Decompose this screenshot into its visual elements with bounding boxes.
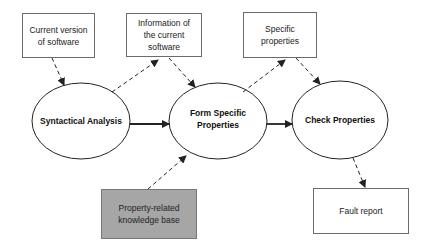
edge-info-software-to-form-specific: [169, 58, 195, 87]
edge-specific-props-to-check-props: [296, 58, 320, 84]
ellipse-label-text: Syntactical Analysis: [40, 115, 122, 127]
box-label: Property-related knowledge base: [116, 202, 182, 226]
label-form-specific-properties: Form Specific Properties: [183, 105, 253, 133]
label-syntactical-analysis: Syntactical Analysis: [36, 109, 126, 133]
box-label: Information of the current software: [131, 17, 197, 53]
box-information-of-current-software: Information of the current software: [126, 13, 202, 57]
edge-form-specific-to-specific-props: [243, 60, 285, 92]
box-current-version-of-software: Current version of software: [22, 13, 95, 58]
ellipse-label-text: Form Specific Properties: [183, 107, 253, 131]
edge-knowledge-base-to-form-specific: [148, 156, 186, 189]
box-specific-properties: Specific properties: [243, 12, 317, 58]
box-label: Current version of software: [27, 24, 90, 48]
edge-current-version-to-syntactical: [52, 58, 64, 85]
edge-check-props-to-fault-report: [353, 158, 365, 187]
box-fault-report: Fault report: [313, 188, 409, 234]
ellipse-label-text: Check Properties: [305, 114, 375, 126]
label-check-properties: Check Properties: [298, 108, 382, 132]
box-property-related-knowledge-base: Property-related knowledge base: [101, 189, 197, 239]
edge-syntactical-to-info-software: [112, 60, 158, 92]
box-label: Specific properties: [248, 23, 312, 47]
box-label: Fault report: [339, 205, 382, 217]
